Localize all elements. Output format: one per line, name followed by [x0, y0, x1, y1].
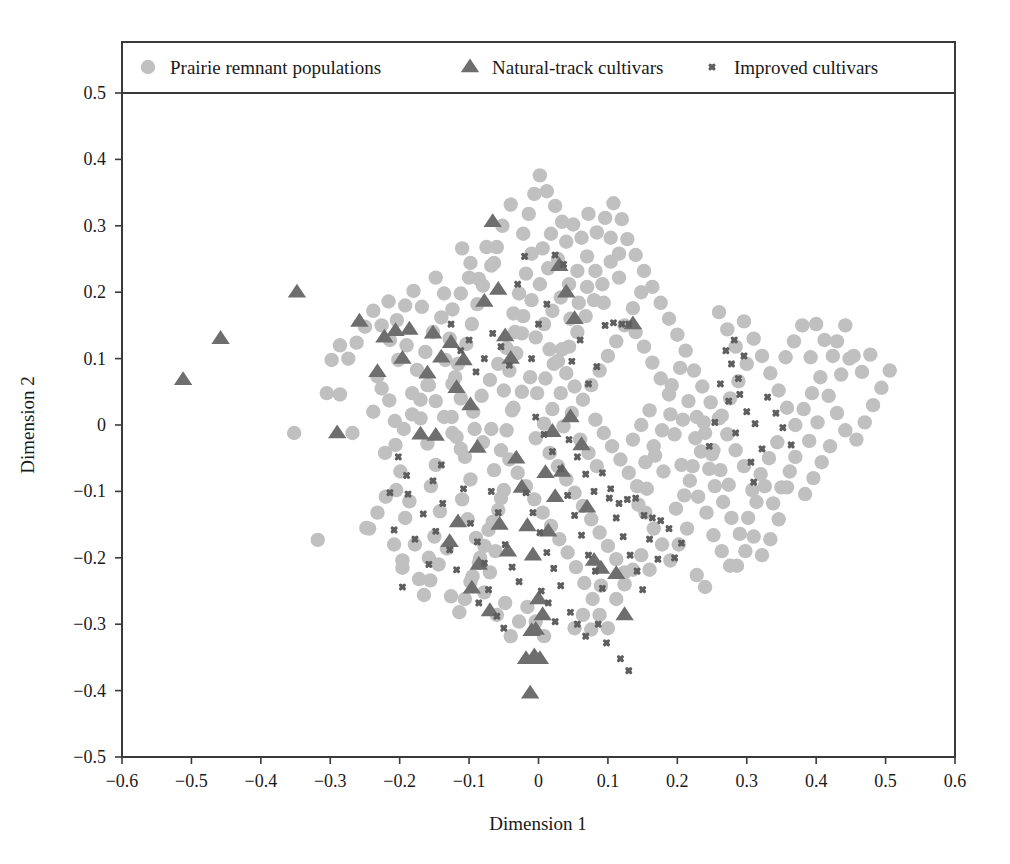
data-point-circle	[487, 256, 501, 270]
data-point-circle	[802, 434, 816, 448]
data-point-circle	[467, 422, 481, 436]
data-point-circle	[397, 422, 411, 436]
data-point-circle	[484, 422, 498, 436]
x-tick-label: −0.5	[175, 771, 208, 791]
data-point-x	[555, 580, 567, 592]
data-point-circle	[324, 353, 338, 367]
data-point-x	[623, 665, 635, 677]
data-point-circle	[722, 478, 736, 492]
data-point-circle	[713, 463, 727, 477]
data-point-circle	[617, 577, 631, 591]
data-point-circle	[577, 576, 591, 590]
data-point-circle	[755, 349, 769, 363]
data-point-circle	[559, 235, 573, 249]
data-points-layer	[174, 168, 897, 698]
data-point-circle	[780, 480, 794, 494]
y-tick-label: 0.5	[84, 83, 107, 103]
data-point-x	[549, 616, 561, 628]
data-point-x	[470, 366, 482, 378]
data-point-circle	[883, 363, 897, 377]
data-point-circle	[533, 277, 547, 291]
data-point-circle	[548, 199, 562, 213]
data-point-circle	[612, 246, 626, 260]
data-point-circle	[738, 544, 752, 558]
data-point-circle	[491, 357, 505, 371]
data-point-circle	[417, 588, 431, 602]
data-point-circle	[609, 592, 623, 606]
y-axis-label: Dimension 2	[17, 376, 38, 474]
data-point-circle	[673, 361, 687, 375]
data-point-circle	[510, 466, 524, 480]
data-point-circle	[454, 391, 468, 405]
data-point-circle	[406, 284, 420, 298]
x-tick-label: 0.4	[805, 771, 828, 791]
data-point-x	[617, 531, 629, 543]
scatter-plot-figure: Prairie remnant populationsNatural-track…	[0, 0, 1010, 864]
y-tick-label: −0.3	[73, 614, 106, 634]
data-point-circle	[803, 350, 817, 364]
data-point-circle	[795, 318, 809, 332]
data-point-circle	[612, 270, 626, 284]
data-point-triangle	[615, 606, 633, 620]
data-point-circle	[838, 423, 852, 437]
data-point-circle	[405, 407, 419, 421]
data-point-triangle	[328, 424, 346, 438]
y-tick-label: 0.2	[84, 282, 107, 302]
data-point-circle	[737, 314, 751, 328]
data-point-circle	[626, 301, 640, 315]
data-point-circle	[697, 415, 711, 429]
x-tick-label: −0.1	[453, 771, 486, 791]
x-tick-label: 0.6	[944, 771, 967, 791]
data-point-circle	[395, 553, 409, 567]
data-point-circle	[455, 492, 469, 506]
data-point-x	[548, 562, 560, 574]
data-point-circle	[516, 309, 530, 323]
data-point-circle	[381, 294, 395, 308]
data-point-x	[588, 485, 600, 497]
data-point-triangle	[211, 330, 229, 344]
data-point-triangle	[440, 533, 458, 547]
legend: Prairie remnant populationsNatural-track…	[122, 42, 955, 93]
data-point-circle	[687, 363, 701, 377]
y-tick-label: −0.5	[73, 747, 106, 767]
data-point-x	[397, 581, 409, 593]
data-point-circle	[497, 383, 511, 397]
data-point-circle	[429, 394, 443, 408]
x-tick-label: 0	[534, 771, 543, 791]
data-point-circle	[559, 366, 573, 380]
data-point-circle	[540, 184, 554, 198]
data-point-triangle	[521, 685, 539, 699]
y-tick-label: −0.1	[73, 481, 106, 501]
data-point-circle	[778, 350, 792, 364]
data-point-circle	[746, 529, 760, 543]
data-point-x	[610, 512, 622, 524]
data-point-circle	[637, 339, 651, 353]
data-point-x	[513, 576, 525, 588]
data-point-circle	[838, 318, 852, 332]
data-point-circle	[555, 342, 569, 356]
data-point-circle	[601, 621, 615, 635]
data-point-circle	[798, 487, 812, 501]
data-point-circle	[504, 197, 518, 211]
data-point-circle	[422, 378, 436, 392]
data-point-circle	[581, 207, 595, 221]
data-point-x	[392, 451, 404, 463]
data-point-circle	[572, 296, 586, 310]
data-point-circle	[512, 614, 526, 628]
data-point-circle	[444, 589, 458, 603]
data-point-circle	[630, 479, 644, 493]
data-point-circle	[809, 317, 823, 331]
data-point-circle	[454, 286, 468, 300]
data-point-circle	[626, 432, 640, 446]
data-point-circle	[585, 592, 599, 606]
data-point-x	[487, 327, 499, 339]
x-tick-label: 0.3	[736, 771, 759, 791]
data-point-circle	[670, 327, 684, 341]
data-point-circle	[533, 168, 547, 182]
data-point-circle	[494, 491, 508, 505]
data-point-circle	[311, 533, 325, 547]
data-point-x	[785, 439, 797, 451]
data-point-circle	[638, 455, 652, 469]
data-point-circle	[846, 349, 860, 363]
data-point-triangle	[288, 284, 306, 298]
